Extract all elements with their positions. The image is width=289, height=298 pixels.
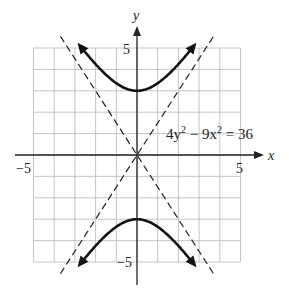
x-min-tick-label: −5 [16,161,31,176]
equation-part: − 9x [186,126,217,142]
hyperbola-graph: x y −5 5 5 −5 4y2 − 9x2 = 36 [0,0,289,298]
y-min-tick-label: −5 [117,255,132,270]
y-max-tick-label: 5 [123,42,130,57]
equation-label: 4y2 − 9x2 = 36 [166,124,253,142]
equation-part: = 36 [222,126,253,142]
equation-part: 4y [166,126,182,142]
y-axis-arrow-icon [133,26,141,36]
x-axis-arrow-icon [254,151,264,159]
x-max-tick-label: 5 [236,161,243,176]
x-axis-label: x [267,148,275,163]
y-axis-label: y [131,8,140,23]
